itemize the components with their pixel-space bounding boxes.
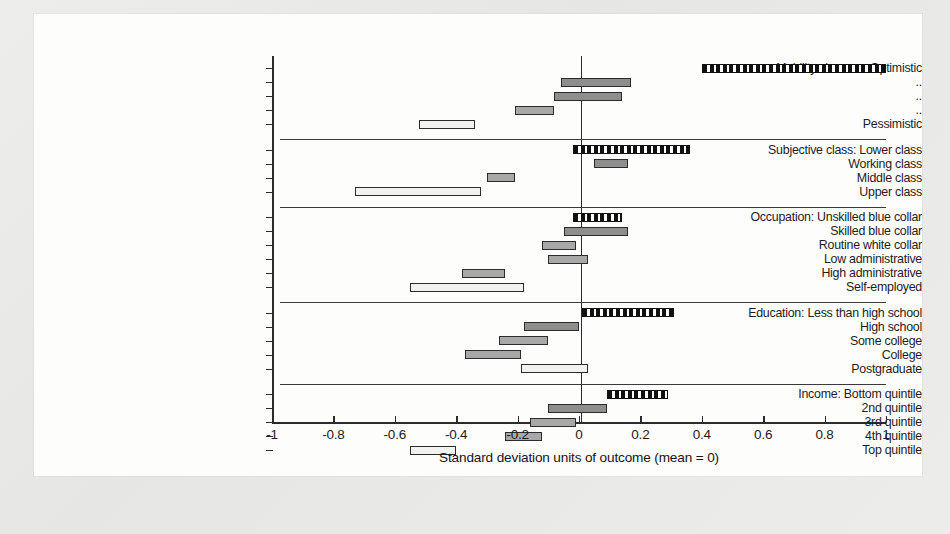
y-axis-label: .. xyxy=(690,90,922,102)
x-axis-tick-label: -0.8 xyxy=(303,427,363,442)
x-axis-tick-label: -0.6 xyxy=(365,427,425,442)
y-axis-tick xyxy=(266,192,273,193)
interval-bar xyxy=(530,418,576,427)
y-axis-tick xyxy=(266,110,273,111)
x-axis-tick xyxy=(518,416,519,423)
y-axis-tick xyxy=(266,313,273,314)
interval-bar xyxy=(594,159,628,168)
y-axis-label: Subjective class: Lower class xyxy=(690,144,922,156)
reference-interval-bar xyxy=(607,390,668,399)
x-axis-tick-label: 1 xyxy=(856,427,916,442)
y-axis-label: Postgraduate xyxy=(690,363,922,375)
y-axis-label: High administrative xyxy=(690,267,922,279)
y-axis-label: Routine white collar xyxy=(690,239,922,251)
y-axis-label: .. xyxy=(690,76,922,88)
x-axis-tick xyxy=(763,416,764,423)
group-separator xyxy=(280,384,886,385)
x-axis-tick-label: 0 xyxy=(549,427,609,442)
y-axis-label: Low administrative xyxy=(690,253,922,265)
y-axis-tick xyxy=(266,217,273,218)
y-axis-label: Working class xyxy=(690,158,922,170)
x-axis-title: Standard deviation units of outcome (mea… xyxy=(272,450,886,465)
x-axis-tick xyxy=(395,416,396,423)
y-axis-tick xyxy=(266,68,273,69)
y-axis-label: High school xyxy=(690,321,922,333)
interval-bar xyxy=(419,120,474,129)
interval-bar xyxy=(465,350,520,359)
y-axis-tick xyxy=(266,259,273,260)
y-axis-tick xyxy=(266,273,273,274)
y-axis-tick xyxy=(266,164,273,165)
y-axis-tick xyxy=(266,287,273,288)
reference-interval-bar xyxy=(573,145,690,154)
y-axis-label: College xyxy=(690,349,922,361)
y-axis-tick xyxy=(266,82,273,83)
y-axis-tick xyxy=(266,408,273,409)
x-axis-tick-label: -0.4 xyxy=(426,427,486,442)
group-separator xyxy=(280,139,886,140)
reference-interval-bar xyxy=(573,213,622,222)
y-axis-tick xyxy=(266,327,273,328)
x-axis-tick-label: 0.6 xyxy=(733,427,793,442)
interval-bar xyxy=(548,255,588,264)
interval-bar xyxy=(499,336,548,345)
y-axis-label: Pessimistic xyxy=(690,118,922,130)
y-axis-tick xyxy=(266,245,273,246)
reference-interval-bar xyxy=(582,308,674,317)
y-axis-tick xyxy=(266,178,273,179)
x-axis-tick xyxy=(456,416,457,423)
interval-bar xyxy=(487,173,515,182)
group-separator xyxy=(280,207,886,208)
x-axis-tick xyxy=(272,416,273,423)
x-axis-tick xyxy=(579,416,580,423)
y-axis-tick xyxy=(266,124,273,125)
y-axis-label: Upper class xyxy=(690,186,922,198)
interval-bar xyxy=(554,92,622,101)
y-axis-label: Middle class xyxy=(690,172,922,184)
interval-bar xyxy=(542,241,576,250)
interval-bar xyxy=(521,364,589,373)
y-axis-tick xyxy=(266,341,273,342)
interval-bar xyxy=(515,106,555,115)
y-axis-tick xyxy=(266,150,273,151)
y-axis-label: Self-employed xyxy=(690,281,922,293)
scanned-page-background: Mobility chances: Optimistic......Pessim… xyxy=(0,0,950,534)
interval-bar xyxy=(548,404,606,413)
y-axis-tick xyxy=(266,394,273,395)
interval-bar xyxy=(564,227,628,236)
y-axis-label: Income: Bottom quintile xyxy=(690,388,922,400)
y-axis-label: Education: Less than high school xyxy=(690,307,922,319)
x-axis-tick-label: -0.2 xyxy=(488,427,548,442)
interval-bar xyxy=(355,187,481,196)
reference-interval-bar xyxy=(702,64,886,73)
x-axis-tick xyxy=(333,416,334,423)
y-axis-tick xyxy=(266,96,273,97)
x-axis-tick xyxy=(702,416,703,423)
y-axis-tick xyxy=(266,231,273,232)
x-axis-tick xyxy=(825,416,826,423)
y-axis-label: .. xyxy=(690,104,922,116)
y-axis-label: 2nd quintile xyxy=(690,402,922,414)
plot-area: Mobility chances: Optimistic......Pessim… xyxy=(34,14,922,476)
x-axis-tick-label: -1 xyxy=(242,427,302,442)
y-axis-label: Skilled blue collar xyxy=(690,225,922,237)
x-axis-tick-label: 0.4 xyxy=(672,427,732,442)
y-axis-label: Some college xyxy=(690,335,922,347)
interval-bar xyxy=(561,78,632,87)
figure-card: Mobility chances: Optimistic......Pessim… xyxy=(34,14,922,476)
y-axis-tick xyxy=(266,355,273,356)
interval-bar xyxy=(462,269,505,278)
group-separator xyxy=(280,302,886,303)
x-axis-tick xyxy=(640,416,641,423)
x-axis-tick xyxy=(886,416,887,423)
y-axis-label: Occupation: Unskilled blue collar xyxy=(690,211,922,223)
interval-bar xyxy=(410,283,524,292)
x-axis-tick-label: 0.2 xyxy=(610,427,670,442)
interval-bar xyxy=(524,322,579,331)
x-axis-tick-label: 0.8 xyxy=(795,427,855,442)
y-axis-tick xyxy=(266,369,273,370)
